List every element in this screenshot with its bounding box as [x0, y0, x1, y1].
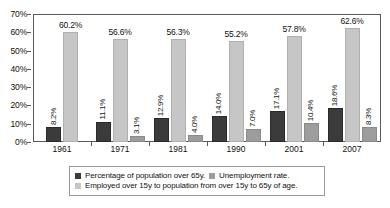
x-axis-tick-label: 2001 [285, 144, 304, 154]
legend-row-1: Percentage of population over 65y. Unemp… [75, 171, 319, 180]
bar [287, 36, 302, 142]
x-axis-tick-label: 1961 [53, 144, 72, 154]
bar-group: 17.1%57.8%10.4% [265, 14, 323, 142]
bar-group: 14.0%55.2%7.0% [207, 14, 265, 142]
bar [171, 39, 186, 142]
bar [304, 123, 319, 142]
bar-value-label: 8.3% [365, 108, 373, 125]
y-axis-tick-label: 10% [11, 119, 27, 129]
bar [154, 118, 169, 142]
bar [229, 41, 244, 142]
bar-value-label: 17.1% [273, 88, 281, 109]
bar-value-label: 11.1% [99, 99, 107, 120]
x-axis-tick-label: 1971 [111, 144, 130, 154]
bar-value-label: 7.0% [249, 110, 257, 127]
x-axis-tick-label: 2007 [343, 144, 362, 154]
legend-swatch-icon-light [75, 183, 81, 189]
bar-value-label: 56.6% [108, 27, 131, 37]
legend-label-unemployment-rate: Unemployment rate. [219, 171, 289, 180]
bar [63, 32, 78, 142]
y-axis-tick [27, 69, 31, 70]
y-axis-tick-label: 0% [15, 137, 27, 147]
bar-value-label: 60.2% [59, 20, 82, 30]
x-axis-tick [149, 142, 150, 146]
bar [212, 116, 227, 142]
bar-value-label: 55.2% [224, 29, 247, 39]
legend-swatch-icon-mid [209, 173, 215, 179]
bar-value-label: 12.9% [157, 95, 165, 116]
y-axis-tick [27, 105, 31, 106]
bar-value-label: 10.4% [307, 100, 315, 121]
x-axis: 196119711981199020012007 [33, 144, 381, 158]
y-axis-tick [27, 51, 31, 52]
bar-value-label: 3.1% [133, 117, 141, 134]
y-axis-tick [27, 87, 31, 88]
legend-label-population-over-65: Percentage of population over 65y. [85, 171, 205, 180]
legend-item-unemployment-rate: Unemployment rate. [209, 171, 289, 180]
x-axis-tick [265, 142, 266, 146]
y-axis-tick [27, 14, 31, 15]
bar [188, 135, 203, 142]
chart-legend: Percentage of population over 65y. Unemp… [69, 166, 325, 196]
bar [46, 127, 61, 142]
y-axis-tick [27, 32, 31, 33]
y-axis-tick [27, 142, 31, 143]
x-axis-tick [323, 142, 324, 146]
bar-group: 18.6%62.6%8.3% [323, 14, 381, 142]
bar-chart: 0%10%20%30%40%50%60%70% 8.2%60.2%11.1%56… [0, 0, 390, 208]
bar [270, 111, 285, 142]
bar-value-label: 57.8% [282, 24, 305, 34]
bar-value-label: 56.3% [166, 27, 189, 37]
bar [328, 108, 343, 142]
x-axis-tick-label: 1990 [227, 144, 246, 154]
y-axis-tick [27, 124, 31, 125]
bar-group: 12.9%56.3%4.0% [149, 14, 207, 142]
x-axis-tick [91, 142, 92, 146]
plot-area-wrapper: 8.2%60.2%11.1%56.6%3.1%12.9%56.3%4.0%14.… [33, 14, 381, 142]
y-axis-tick-label: 40% [11, 64, 27, 74]
bar [130, 136, 145, 142]
bar [345, 28, 360, 142]
bar-value-label: 62.6% [340, 16, 363, 26]
bar-value-label: 8.2% [50, 108, 58, 125]
x-axis-tick [207, 142, 208, 146]
y-axis-tick-label: 30% [11, 82, 27, 92]
legend-swatch-icon-dark [75, 173, 81, 179]
legend-item-population-over-65: Percentage of population over 65y. [75, 171, 205, 180]
bar [113, 39, 128, 142]
bar-value-label: 18.6% [331, 85, 339, 106]
bar-group: 11.1%56.6%3.1% [91, 14, 149, 142]
bar-value-label: 14.0% [215, 93, 223, 114]
y-axis-tick-label: 20% [11, 100, 27, 110]
y-axis-tick-label: 70% [11, 9, 27, 19]
legend-row-2: Employed over 15y to population from ove… [75, 181, 319, 190]
y-axis-tick-label: 50% [11, 46, 27, 56]
bar [96, 122, 111, 142]
y-axis-tick-label: 60% [11, 27, 27, 37]
bar-value-label: 4.0% [191, 116, 199, 133]
legend-label-employed-ratio: Employed over 15y to population from ove… [85, 181, 297, 190]
bar [246, 129, 261, 142]
legend-item-employed-ratio: Employed over 15y to population from ove… [75, 181, 297, 190]
bar [362, 127, 377, 142]
bar-group: 8.2%60.2% [33, 14, 91, 142]
x-axis-tick-label: 1981 [169, 144, 188, 154]
y-axis: 0%10%20%30%40%50%60%70% [0, 14, 31, 142]
